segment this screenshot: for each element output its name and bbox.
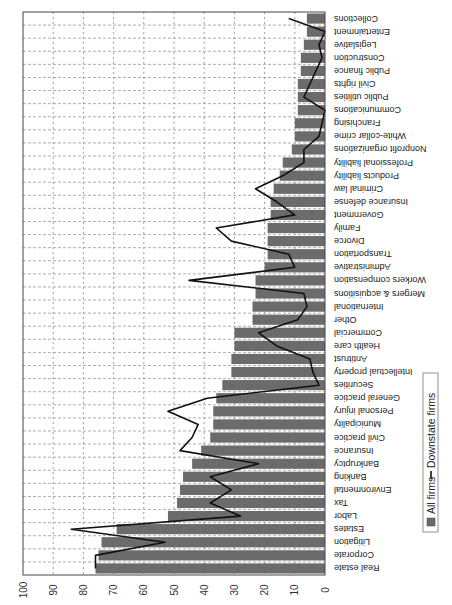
category-label: Workers compensation [334,275,426,285]
tick-label: 80 [78,584,89,596]
bar [177,498,325,508]
category-label: International [334,302,384,312]
category-label: Government [334,210,384,220]
category-label: Securities [334,380,374,390]
category-label: Insurance [334,446,374,456]
category-label: Intellectual property [334,367,413,377]
category-label: Insurance defense [334,197,408,207]
category-label: Communications [334,105,402,115]
category-label: Public utilities [334,92,389,102]
bar [234,328,325,338]
bar [95,563,325,573]
bar [298,92,325,102]
category-label: Legislative [334,40,377,50]
category-label: Commercial [334,328,382,338]
category-label: Municipality [334,419,382,429]
bar [301,66,325,76]
value-axis-tick-labels: 0102030405060708090100 [18,581,331,598]
bar [271,210,325,220]
category-label: White-collar crime [334,131,406,141]
category-label: Professional liability [334,158,414,168]
tick-label: 90 [48,584,59,596]
bar [234,341,325,351]
category-label: Bankruptcy [334,459,380,469]
tick-label: 40 [199,584,210,596]
category-label: Collections [334,14,379,24]
category-label: Real estate [334,563,380,573]
category-label: Transportation [334,249,392,259]
category-label: Public finance [334,66,390,76]
category-label: Environmental [334,485,392,495]
legend: All firms Downstate firms [423,373,438,532]
category-label: Corporate [334,550,374,560]
bar [117,524,325,534]
bar [213,406,325,416]
category-label: Franchising [334,118,381,128]
legend-bar-swatch [427,518,435,526]
legend-label-downstate-firms: Downstate firms [425,393,437,468]
category-label: Construction [334,53,385,63]
bar [280,171,325,181]
rotated-bar-line-chart: Real estateCorporateLitigationEstatesLab… [0,0,452,605]
tick-label: 10 [289,584,300,596]
category-label: Estates [334,524,365,534]
bar [99,550,326,560]
category-label: Criminal law [334,184,384,194]
bar [210,432,325,442]
bar [274,184,325,194]
tick-label: 60 [138,584,149,596]
bar [222,380,325,390]
bar [183,472,325,482]
bar [213,419,325,429]
bar [268,223,325,233]
category-label: Divorce [334,236,365,246]
category-label: Nonprofit organizations [334,144,427,154]
category-label: Tax [334,498,349,508]
category-label: Civil practice [334,433,385,443]
category-label: Entertainment [334,27,391,37]
bar [268,236,325,246]
category-label: Personal injury [334,406,394,416]
tick-label: 70 [108,584,119,596]
category-label: Family [334,223,361,233]
category-label: Antitrust [334,354,368,364]
category-label: Mergers & acquisitions [334,289,426,299]
category-label: Litigation [334,537,370,547]
bar [304,40,325,50]
category-labels: Real estateCorporateLitigationEstatesLab… [334,14,427,574]
bar [180,485,325,495]
bar [298,105,325,115]
bar [231,367,325,377]
bar [307,13,325,23]
tick-label: 20 [259,584,270,596]
category-label: General practice [334,393,400,403]
bar [253,301,325,311]
bar [271,197,325,207]
bar [256,275,325,285]
category-label: Administrative [334,262,391,272]
tick-label: 30 [229,584,240,596]
category-label: Labor [334,511,357,521]
tick-label: 50 [169,584,180,596]
category-label: Civil rights [334,79,376,89]
bar [201,446,325,456]
category-label: Health care [334,341,380,351]
tick-label: 0 [320,587,331,593]
category-label: Products liability [334,171,400,181]
category-label: Banking [334,472,367,482]
category-label: Other [334,315,357,325]
legend-label-all-firms: All firms [425,477,437,514]
tick-label: 100 [18,581,29,598]
